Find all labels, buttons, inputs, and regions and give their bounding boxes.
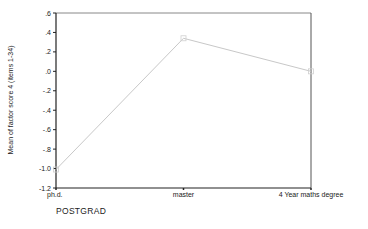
y-tick-label: -.4 (43, 107, 51, 114)
series-line (56, 38, 311, 169)
y-tick-label: -.2 (43, 87, 51, 94)
plot-frame (56, 13, 311, 188)
y-tick-label: .6 (45, 10, 51, 17)
y-tick-label: .0 (45, 68, 51, 75)
x-axis-label: POSTGRAD (56, 206, 106, 216)
y-tick-label: .2 (45, 48, 51, 55)
line-chart: .6.4.2.0-.2-.4-.6-.8-1.0-1.2 ph.d.master… (0, 0, 368, 229)
data-series (54, 36, 314, 172)
y-axis-label: Mean of factor score 4 (items 1-34) (7, 46, 15, 155)
x-category-label: 4 Year maths degree (279, 191, 344, 199)
x-category-label: master (173, 191, 195, 198)
y-tick-label: -1.0 (39, 165, 51, 172)
y-tick-label: -.6 (43, 126, 51, 133)
y-ticks: .6.4.2.0-.2-.4-.6-.8-1.0-1.2 (39, 10, 56, 192)
y-tick-label: .4 (45, 29, 51, 36)
x-category-label: ph.d. (47, 191, 63, 199)
y-tick-label: -.8 (43, 146, 51, 153)
x-ticks: ph.d.master4 Year maths degree (47, 188, 343, 199)
